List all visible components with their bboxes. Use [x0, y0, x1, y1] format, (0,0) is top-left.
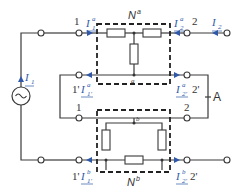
junction-label-A: A [213, 90, 221, 104]
current-Ia2p-label: I a 2' [175, 81, 188, 98]
terminal-1-bottom [76, 115, 82, 121]
svg-text:2: 2 [218, 23, 222, 31]
current-Ib2p-label: I b 2' [175, 168, 188, 185]
circuit-diagram: N a N b a b 1 2 1' 2' 1 2 1' 2' I 1 I a … [0, 0, 244, 193]
arrow-ia2p-icon [174, 72, 180, 78]
resistors [102, 29, 166, 164]
svg-text:a: a [137, 8, 141, 15]
current-I2-label: I 2 [211, 16, 222, 31]
port-1p-top: 1' [72, 83, 80, 95]
resistor-nb-left [102, 130, 110, 150]
svg-text:a: a [180, 15, 184, 23]
node-a-label: a [131, 77, 135, 85]
terminal-2-top [184, 30, 190, 36]
svg-text:I: I [24, 71, 30, 83]
label-na: N [128, 9, 136, 21]
wires [21, 33, 224, 170]
label-nb: N [127, 176, 135, 188]
arrow-i1-icon [18, 76, 24, 82]
svg-text:a: a [87, 81, 91, 89]
current-Ib1p-label: I b 1' [80, 168, 93, 185]
terminal-2p-top [184, 72, 190, 78]
current-Ia1p-label: I a 1' [80, 81, 93, 98]
terminal-2p-bottom [184, 157, 190, 163]
arrow-ia1p-icon [86, 72, 92, 78]
node-b-label: b [136, 115, 140, 123]
resistor-na-shunt [130, 44, 138, 64]
svg-text:I: I [175, 83, 181, 95]
resistor-nb-series [125, 156, 143, 164]
resistor-na-right [143, 29, 161, 37]
wire-source-bottom [21, 105, 41, 160]
svg-text:I: I [85, 17, 91, 29]
terminal-1-top [76, 30, 82, 36]
svg-text:b: b [182, 168, 186, 176]
port-2-bottom: 2 [184, 101, 190, 113]
ac-source-icon [12, 87, 30, 105]
resistor-nb-right [158, 130, 166, 150]
svg-text:1: 1 [31, 78, 35, 86]
svg-text:I: I [175, 170, 181, 182]
terminal-2-bottom [184, 115, 190, 121]
current-Ia1-label: I a 1 [85, 15, 96, 32]
arrow-ib1p-icon [86, 157, 92, 163]
port-1p-bottom: 1' [72, 170, 80, 182]
current-Ia2-label: I a 2 [173, 15, 184, 32]
terminal-1p-bottom [76, 157, 82, 163]
terminal-1p-top [76, 72, 82, 78]
port-1-top: 1 [74, 15, 80, 27]
port-1-bottom: 1 [76, 101, 82, 113]
current-I1-label: I 1 [24, 71, 35, 86]
port-2p-bottom: 2' [190, 170, 198, 182]
svg-text:I: I [211, 16, 217, 28]
svg-text:I: I [173, 17, 179, 29]
arrow-ib2p-icon [174, 157, 180, 163]
svg-text:a: a [182, 81, 186, 89]
svg-text:b: b [136, 175, 140, 182]
svg-text:I: I [80, 83, 86, 95]
port-2-top: 2 [192, 15, 198, 27]
port-2p-top: 2' [192, 83, 200, 95]
svg-text:b: b [87, 168, 91, 176]
svg-text:a: a [92, 15, 96, 23]
svg-text:I: I [80, 170, 86, 182]
current-arrows [18, 30, 218, 163]
resistor-na-left [107, 29, 125, 37]
